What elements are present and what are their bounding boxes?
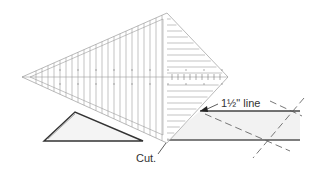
line-label: 1½" line (221, 98, 260, 109)
cut-label: Cut. (136, 153, 156, 164)
quilting-ruler-diagram (0, 0, 319, 169)
cut-pointer (158, 143, 166, 154)
